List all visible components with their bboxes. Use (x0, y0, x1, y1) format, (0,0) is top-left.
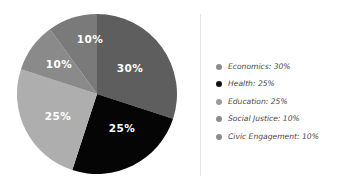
legend-item[interactable]: Civic Engagement: 10% (216, 128, 338, 146)
pie-slice-label: 25% (45, 110, 71, 122)
pie-chart-figure: 30%25%25%10%10% Economics: 30%Health: 25… (0, 0, 341, 189)
pie-slice-label: 10% (46, 58, 72, 70)
legend-item-label: Education: 25% (228, 98, 288, 106)
legend-item[interactable]: Economics: 30% (216, 58, 338, 76)
pie-chart-area: 30%25%25%10%10% (0, 0, 200, 189)
legend-swatch-icon (216, 64, 222, 70)
legend-item-label: Economics: 30% (228, 63, 291, 71)
pie-slice-label: 30% (117, 62, 143, 74)
legend-swatch-icon (216, 81, 222, 87)
legend-swatch-icon (216, 116, 222, 122)
legend-item-label: Social Justice: 10% (228, 115, 300, 123)
legend-swatch-icon (216, 134, 222, 140)
pie-slice-label: 10% (77, 33, 103, 45)
legend-item[interactable]: Health: 25% (216, 76, 338, 94)
chart-legend: Economics: 30%Health: 25%Education: 25%S… (216, 58, 338, 146)
legend-swatch-icon (216, 99, 222, 105)
legend-item[interactable]: Education: 25% (216, 93, 338, 111)
vertical-divider (200, 14, 201, 176)
legend-item-label: Civic Engagement: 10% (228, 133, 319, 141)
pie-slice-label: 25% (109, 122, 135, 134)
pie-chart-svg: 30%25%25%10%10% (0, 0, 200, 189)
legend-item[interactable]: Social Justice: 10% (216, 111, 338, 129)
legend-item-label: Health: 25% (228, 80, 275, 88)
